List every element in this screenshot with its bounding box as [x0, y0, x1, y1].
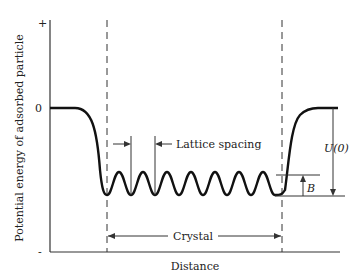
y-tick-plus: + — [38, 17, 47, 30]
arrowhead-icon — [330, 189, 336, 196]
barrier-label: B — [306, 182, 315, 195]
arrowhead-icon — [274, 233, 281, 239]
y-axis-label: Potential energy of adsorbed particle — [13, 34, 26, 242]
arrowhead-icon — [108, 233, 115, 239]
y-tick-minus: - — [38, 246, 42, 259]
crystal-label: Crystal — [173, 230, 214, 243]
arrowhead-icon — [155, 141, 162, 147]
arrowhead-icon — [300, 175, 306, 182]
y-tick-zero: 0 — [35, 102, 42, 115]
lattice-spacing-label: Lattice spacing — [176, 138, 261, 151]
potential-energy-diagram: + 0 - Potential energy of adsorbed parti… — [0, 0, 362, 279]
binding-energy-label: U(0) — [324, 142, 349, 155]
potential-curve — [50, 108, 338, 195]
x-axis-label: Distance — [171, 260, 220, 273]
arrowhead-icon — [124, 141, 131, 147]
